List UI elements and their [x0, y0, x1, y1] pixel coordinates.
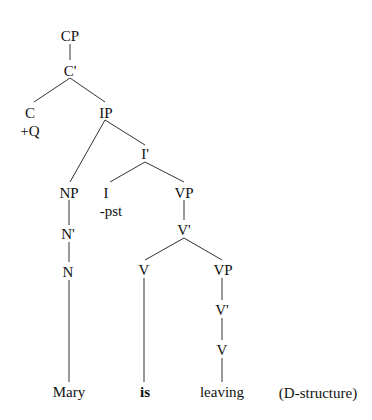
leaf-mary: Mary: [53, 384, 86, 400]
leaf-is: is: [140, 384, 150, 400]
node-ip: IP: [99, 105, 112, 121]
node-c-feature: +Q: [20, 123, 39, 139]
node-v-bar-lower: V': [215, 302, 229, 318]
node-vp: VP: [174, 185, 193, 201]
leaf-leaving: leaving: [200, 384, 244, 400]
node-np: NP: [59, 185, 78, 201]
node-vp-lower: VP: [213, 262, 232, 278]
node-cp: CP: [61, 28, 79, 44]
node-n: N: [63, 264, 74, 280]
node-c-bar: C': [64, 63, 77, 79]
node-i: I: [104, 185, 109, 201]
node-i-bar: I': [141, 146, 149, 162]
node-c: C: [25, 105, 35, 121]
node-n-bar: N': [61, 226, 75, 242]
node-v-bar: V': [177, 222, 191, 238]
node-v-lower: V: [217, 342, 228, 358]
node-v: V: [139, 262, 150, 278]
caption: (D-structure): [279, 385, 357, 401]
node-i-feature: -pst: [100, 203, 123, 219]
tree-edges: [0, 0, 372, 420]
